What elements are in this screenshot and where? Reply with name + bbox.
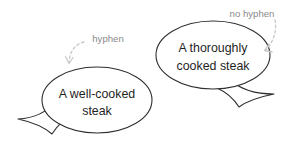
speech-bubble-right[interactable]: A thoroughly cooked steak bbox=[156, 21, 274, 107]
annotation-hyphen: hyphen bbox=[66, 33, 124, 64]
speech-bubble-left[interactable]: A well-cooked steak bbox=[18, 67, 152, 134]
speech-bubble-right-line1: A thoroughly bbox=[179, 41, 249, 55]
speech-bubble-right-line2: cooked steak bbox=[176, 59, 250, 73]
speech-bubble-left-line1: A well-cooked bbox=[59, 87, 136, 101]
illustration-canvas: A well-cooked steak A thoroughly cooked … bbox=[0, 0, 307, 143]
annotation-no-hyphen-label: no hyphen bbox=[230, 8, 275, 19]
speech-bubble-left-line2: steak bbox=[82, 104, 112, 118]
annotation-hyphen-label: hyphen bbox=[92, 33, 123, 44]
speech-bubble-illustration: A well-cooked steak A thoroughly cooked … bbox=[0, 0, 307, 143]
